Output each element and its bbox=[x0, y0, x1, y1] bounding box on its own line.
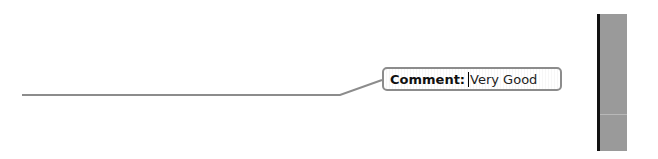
side-bar-divider bbox=[600, 114, 627, 115]
side-bar bbox=[597, 14, 627, 151]
comment-value[interactable]: Very Good bbox=[470, 72, 537, 87]
comment-field[interactable]: Comment: Very Good bbox=[382, 67, 562, 91]
text-caret bbox=[468, 72, 469, 87]
comment-label: Comment: bbox=[390, 72, 465, 87]
